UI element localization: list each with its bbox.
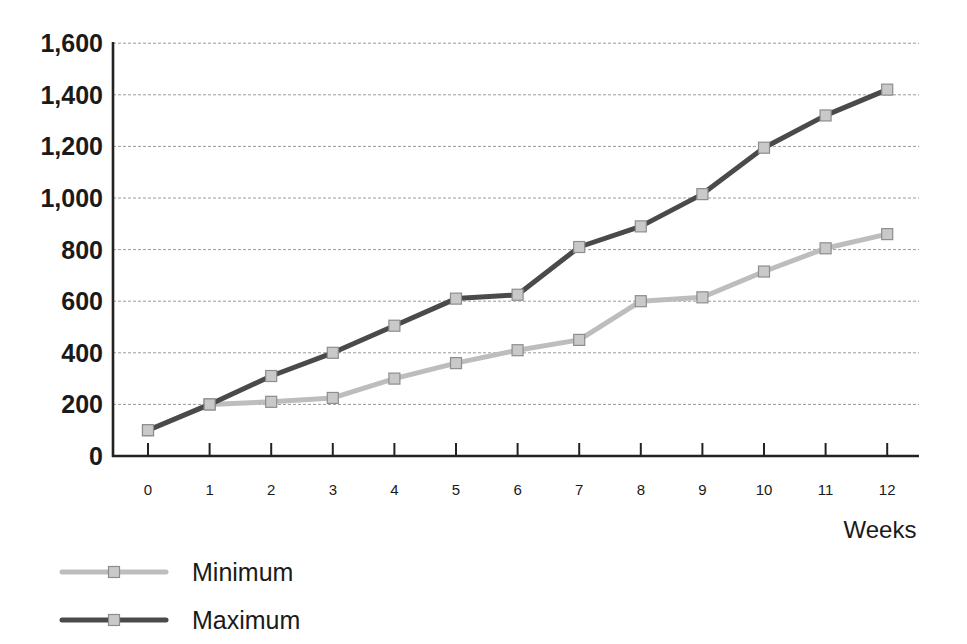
data-point-marker — [635, 221, 646, 232]
x-tick-label: 6 — [513, 481, 521, 498]
series-line — [148, 90, 887, 431]
y-tick-labels: 02004006008001,0001,2001,4001,600 — [40, 29, 103, 470]
legend-item[interactable]: Minimum — [62, 558, 293, 586]
x-tick-label: 11 — [818, 481, 834, 498]
data-point-marker — [389, 320, 400, 331]
legend-marker-swatch — [109, 615, 120, 626]
x-tick-labels: 0123456789101112 — [144, 481, 896, 498]
x-tick-label: 2 — [267, 481, 275, 498]
legend-label: Maximum — [192, 606, 300, 634]
legend-item[interactable]: Maximum — [62, 606, 300, 634]
y-tick-label: 0 — [89, 442, 103, 470]
data-point-marker — [697, 189, 708, 200]
data-point-marker — [266, 396, 277, 407]
y-tick-label: 1,200 — [40, 132, 103, 160]
data-point-marker — [512, 345, 523, 356]
data-point-marker — [389, 373, 400, 384]
series-line — [148, 234, 887, 430]
y-tick-label: 400 — [61, 339, 103, 367]
data-point-marker — [143, 425, 154, 436]
x-tick-label: 1 — [205, 481, 213, 498]
x-tick-label: 10 — [756, 481, 773, 498]
x-tick-label: 7 — [575, 481, 583, 498]
data-point-marker — [759, 142, 770, 153]
data-point-marker — [512, 289, 523, 300]
data-point-marker — [882, 84, 893, 95]
data-point-marker — [574, 242, 585, 253]
x-tick-label: 4 — [390, 481, 398, 498]
y-tick-label: 1,600 — [40, 29, 103, 57]
x-tick-label: 5 — [452, 481, 460, 498]
data-point-marker — [451, 358, 462, 369]
y-tick-label: 600 — [61, 287, 103, 315]
data-point-marker — [697, 292, 708, 303]
data-point-marker — [451, 293, 462, 304]
x-tick-label: 8 — [637, 481, 645, 498]
y-tick-label: 1,400 — [40, 81, 103, 109]
x-tick-label: 9 — [698, 481, 706, 498]
series-maximum — [143, 84, 893, 436]
chart-container: 02004006008001,0001,2001,4001,600 012345… — [0, 0, 967, 644]
y-tick-label: 800 — [61, 236, 103, 264]
data-point-marker — [204, 399, 215, 410]
x-tick-label: 3 — [329, 481, 337, 498]
data-point-marker — [820, 110, 831, 121]
legend-marker-swatch — [109, 567, 120, 578]
data-point-marker — [635, 296, 646, 307]
data-point-marker — [266, 371, 277, 382]
x-tick-label: 0 — [144, 481, 152, 498]
data-point-marker — [327, 347, 338, 358]
data-point-marker — [759, 266, 770, 277]
line-chart: 02004006008001,0001,2001,4001,600 012345… — [0, 0, 967, 644]
data-point-marker — [574, 334, 585, 345]
x-tick-label: 12 — [879, 481, 896, 498]
data-point-marker — [882, 229, 893, 240]
x-axis-title: Weeks — [844, 516, 917, 543]
data-point-marker — [327, 392, 338, 403]
legend-label: Minimum — [192, 558, 293, 586]
x-axis-ticks — [148, 443, 887, 456]
legend: MinimumMaximum — [62, 558, 300, 634]
y-tick-label: 1,000 — [40, 184, 103, 212]
data-point-marker — [820, 243, 831, 254]
y-tick-label: 200 — [61, 390, 103, 418]
